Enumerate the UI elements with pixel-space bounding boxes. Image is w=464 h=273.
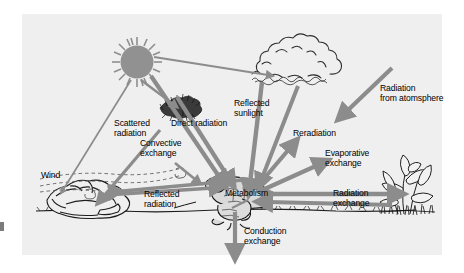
label-reflected-sunlight: Reflected sunlight <box>234 99 269 118</box>
label-reradiation: Reradiation <box>293 129 336 139</box>
label-conduction-exchange: Conduction exchange <box>244 227 286 246</box>
label-scattered-radiation: Scattered radiation <box>114 119 150 138</box>
label-evaporative-exchange: Evaporative exchange <box>325 149 369 168</box>
arrow-convective-exchange <box>175 163 196 180</box>
label-radiation-from-atmosphere: Radiation from atomsphere <box>380 84 443 103</box>
arrow-direct-radiation-2 <box>177 97 228 177</box>
cloud-icon <box>252 34 342 78</box>
label-wind: Wind <box>41 171 60 181</box>
thermal-exchange-figure: Scattered radiation Direct radiation Con… <box>0 0 464 273</box>
label-direct-radiation: Direct radiation <box>171 119 227 129</box>
label-convective-exchange: Convective exchange <box>140 139 182 158</box>
diagram-canvas <box>0 0 464 273</box>
label-metabolism: Metabolism <box>225 189 268 199</box>
arrow-sun-to-cloud <box>154 57 268 75</box>
arrow-plant-to-frog <box>268 202 392 205</box>
label-radiation-exchange: Radiation exchange <box>333 189 369 208</box>
label-reflected-radiation: Reflected radiation <box>144 190 179 209</box>
